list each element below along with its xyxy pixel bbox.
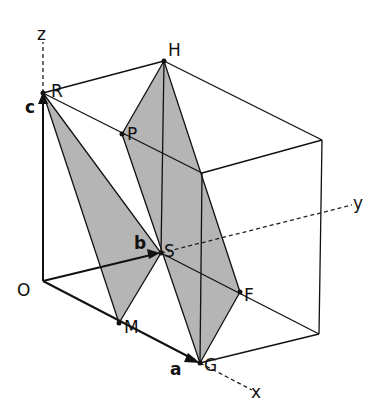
- label-b: b: [134, 233, 146, 253]
- point-H: [162, 59, 167, 64]
- label-z: z: [37, 24, 46, 44]
- point-S: [159, 251, 164, 256]
- plane-HPGF: [122, 61, 240, 363]
- label-c: c: [25, 97, 35, 117]
- point-R: [41, 91, 46, 96]
- label-M: M: [124, 317, 139, 337]
- label-origin: O: [17, 280, 30, 300]
- edge-topfront-topback: [202, 140, 322, 173]
- point-M: [117, 321, 122, 326]
- label-y: y: [353, 193, 363, 213]
- label-H: H: [168, 40, 181, 60]
- label-G: G: [204, 355, 217, 375]
- label-P: P: [127, 124, 137, 144]
- edge-H-topback: [164, 61, 322, 140]
- label-S: S: [164, 241, 175, 261]
- unit-cell-diagram: z y x O c b a R H P S F G M: [0, 0, 379, 418]
- label-a: a: [170, 359, 181, 379]
- edge-G-bottomback: [200, 334, 319, 363]
- point-G: [198, 361, 203, 366]
- label-x: x: [251, 382, 261, 402]
- edge-topback-bottomback: [319, 140, 322, 334]
- label-R: R: [51, 81, 63, 101]
- point-F: [238, 290, 243, 295]
- point-P: [120, 132, 125, 137]
- label-F: F: [244, 285, 254, 305]
